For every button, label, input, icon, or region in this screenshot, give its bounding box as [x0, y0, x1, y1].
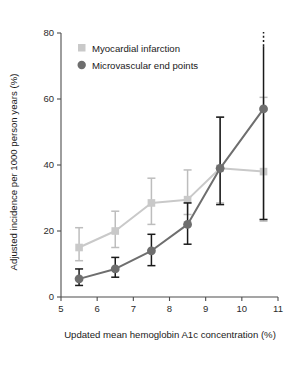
legend-label-microvascular-end-points: Microvascular end points — [92, 60, 198, 71]
x-tick-label: 8 — [167, 303, 172, 314]
x-tick-label: 6 — [95, 303, 100, 314]
y-tick-label: 80 — [43, 27, 54, 38]
data-point-marker — [183, 220, 192, 229]
data-point-marker — [147, 246, 156, 255]
data-point-marker — [111, 265, 120, 274]
incidence-vs-hba1c-line-chart: 020406080 567891011 Adjusted incidence p… — [0, 0, 302, 366]
x-tick-label: 5 — [58, 303, 63, 314]
x-tick-label: 7 — [131, 303, 136, 314]
data-point-marker — [259, 105, 268, 114]
data-point-marker — [111, 227, 119, 235]
data-point-marker — [216, 164, 225, 173]
x-tick-label: 11 — [273, 303, 283, 314]
y-tick-label: 40 — [43, 159, 54, 170]
x-tick-label: 9 — [203, 303, 208, 314]
y-tick-label: 0 — [49, 291, 54, 302]
data-point-marker — [75, 274, 84, 283]
legend-label-myocardial-infarction: Myocardial infarction — [92, 43, 180, 54]
legend-swatch-myocardial-infarction — [78, 44, 86, 52]
data-point-marker — [148, 199, 156, 207]
legend-swatch-microvascular-end-points — [78, 61, 86, 69]
chart-figure: 020406080 567891011 Adjusted incidence p… — [0, 0, 302, 366]
x-axis-title: Updated mean hemoglobin A1c concentratio… — [64, 329, 276, 340]
data-point-marker — [75, 244, 83, 252]
y-axis-title: Adjusted incidence per 1000 person years… — [8, 74, 19, 271]
y-tick-label: 60 — [43, 93, 54, 104]
y-tick-label: 20 — [43, 225, 54, 236]
x-tick-label: 10 — [237, 303, 248, 314]
